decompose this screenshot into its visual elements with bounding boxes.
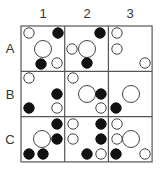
cell-a1 — [24, 28, 63, 69]
open-small-circle-icon — [140, 58, 150, 68]
filled-small-circle-icon — [82, 58, 92, 68]
cell-b1 — [24, 73, 62, 113]
open-small-circle-icon — [112, 44, 122, 54]
filled-small-circle-icon — [111, 103, 121, 113]
open-big-circle-icon — [79, 41, 96, 58]
filled-small-circle-icon — [96, 89, 106, 99]
open-small-circle-icon — [24, 73, 34, 83]
open-small-circle-icon — [52, 103, 62, 113]
filled-small-circle-icon — [95, 28, 105, 38]
filled-small-circle-icon — [52, 134, 62, 144]
cell-b3 — [111, 86, 140, 114]
circle-grid-diagram — [0, 0, 160, 169]
cell-a2 — [67, 28, 105, 68]
filled-small-circle-icon — [96, 134, 106, 144]
filled-small-circle-icon — [24, 103, 34, 113]
cell-c2 — [68, 119, 106, 159]
open-small-circle-icon — [112, 134, 122, 144]
filled-small-circle-icon — [24, 149, 34, 159]
filled-small-circle-icon — [36, 59, 46, 69]
open-big-circle-icon — [34, 131, 51, 148]
filled-small-circle-icon — [52, 89, 62, 99]
open-small-circle-icon — [96, 103, 106, 113]
open-small-circle-icon — [112, 119, 122, 129]
filled-small-circle-icon — [52, 119, 62, 129]
cell-a3 — [112, 28, 150, 68]
open-small-circle-icon — [96, 149, 106, 159]
open-big-circle-icon — [35, 41, 52, 58]
filled-small-circle-icon — [96, 119, 106, 129]
open-small-circle-icon — [67, 44, 77, 54]
grid-circles — [24, 28, 150, 159]
open-small-circle-icon — [112, 28, 122, 38]
open-small-circle-icon — [52, 58, 62, 68]
cell-b2 — [68, 73, 106, 113]
open-small-circle-icon — [68, 73, 78, 83]
filled-small-circle-icon — [82, 149, 92, 159]
cell-c3 — [111, 119, 150, 159]
filled-small-circle-icon — [38, 149, 48, 159]
open-big-circle-icon — [79, 86, 96, 103]
open-big-circle-icon — [123, 131, 140, 148]
open-small-circle-icon — [24, 28, 34, 38]
filled-small-circle-icon — [111, 149, 121, 159]
open-small-circle-icon — [140, 149, 150, 159]
open-small-circle-icon — [68, 134, 78, 144]
cell-c1 — [24, 119, 62, 159]
filled-small-circle-icon — [53, 28, 63, 38]
open-big-circle-icon — [123, 86, 140, 103]
open-small-circle-icon — [68, 119, 78, 129]
